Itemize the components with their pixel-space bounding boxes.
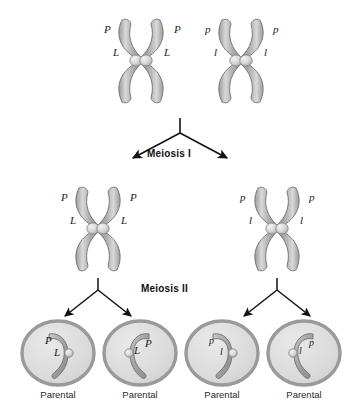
centromere xyxy=(230,55,252,66)
middle-left-chromosome xyxy=(62,182,134,276)
meiosis-one-label: Meiosis I xyxy=(147,148,191,159)
centromere xyxy=(130,55,152,66)
gamete-2-caption: Parental xyxy=(100,389,180,400)
gamete-2-allele-bottom: P xyxy=(145,338,152,349)
allele-label-middle-right-l-right: l xyxy=(300,215,303,226)
meiosis-diagram: P P L L p p l l Meiosis I P P L xyxy=(0,0,356,412)
gamete-3-allele-top: p xyxy=(209,336,214,346)
gamete-3-caption: Parental xyxy=(182,389,262,400)
allele-label-middle-left-P-right: P xyxy=(130,192,137,203)
allele-label-top-right-p-left: p xyxy=(205,24,211,35)
gamete-1: P L Parental xyxy=(18,318,98,408)
allele-label-middle-left-L-left: L xyxy=(70,215,76,226)
gamete-2-allele-top: L xyxy=(134,345,140,356)
allele-label-middle-right-p-right: p xyxy=(309,192,315,203)
allele-label-top-left-L-left: L xyxy=(113,47,119,58)
top-right-homolog xyxy=(205,14,277,108)
centromere xyxy=(125,349,133,357)
allele-label-top-right-p-right: p xyxy=(273,24,279,35)
allele-label-middle-left-L-right: L xyxy=(121,215,127,226)
allele-label-top-left-P-left: P xyxy=(104,24,111,35)
centromere xyxy=(289,349,297,357)
gamete-1-allele-bottom: L xyxy=(54,347,60,358)
centromere xyxy=(65,349,73,357)
gamete-1-allele-top: P xyxy=(45,335,52,346)
gamete-2: L P Parental xyxy=(100,318,180,408)
middle-right-chromosome xyxy=(241,182,313,276)
allele-label-top-left-P-right: P xyxy=(174,24,181,35)
gamete-4-cell xyxy=(264,318,344,388)
allele-label-middle-left-P-left: P xyxy=(61,192,68,203)
allele-label-top-left-L-right: L xyxy=(164,47,170,58)
gamete-4: l p Parental xyxy=(264,318,344,408)
gamete-3: p l Parental xyxy=(182,318,262,408)
top-left-homolog xyxy=(105,14,177,108)
gamete-1-caption: Parental xyxy=(18,389,98,400)
centromere xyxy=(266,223,288,234)
allele-label-top-right-l-right: l xyxy=(264,47,267,58)
centromere xyxy=(87,223,109,234)
gamete-4-allele-top: l xyxy=(299,346,302,356)
meiosis-two-label: Meiosis II xyxy=(141,283,188,294)
allele-label-middle-right-l-left: l xyxy=(249,215,252,226)
gamete-4-caption: Parental xyxy=(264,389,344,400)
allele-label-middle-right-p-left: p xyxy=(240,192,246,203)
gamete-3-allele-bottom: l xyxy=(220,347,223,357)
gamete-4-allele-bottom: p xyxy=(309,338,314,348)
centromere xyxy=(229,349,237,357)
allele-label-top-right-l-left: l xyxy=(214,47,217,58)
